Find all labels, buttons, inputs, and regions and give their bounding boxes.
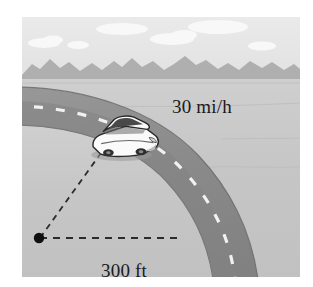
figure-container: 30 mi/h 300 ft — [0, 0, 313, 287]
paper-grain — [22, 17, 300, 277]
speed-label: 30 mi/h — [172, 96, 232, 118]
scene-artwork — [22, 17, 300, 277]
radius-label: 300 ft — [101, 260, 147, 277]
illustration-scene: 30 mi/h 300 ft — [22, 17, 300, 277]
